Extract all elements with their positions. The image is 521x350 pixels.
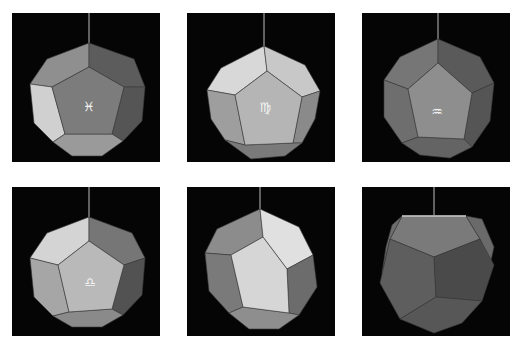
photo-panel-1: ♓ xyxy=(12,13,160,162)
zodiac-symbol: ♒ xyxy=(431,105,443,118)
photo-panel-3: ♒ xyxy=(362,13,510,162)
dodecahedron-image xyxy=(12,13,160,162)
face-bottom xyxy=(402,137,472,158)
dodecahedron-image xyxy=(12,187,160,336)
photo-panel-2: ♍ xyxy=(187,13,335,162)
photo-panel-5 xyxy=(187,187,335,336)
dodecahedron-image xyxy=(187,13,335,162)
dodecahedron-image xyxy=(362,187,510,336)
dodecahedron-image xyxy=(187,187,335,336)
photo-panel-6 xyxy=(362,187,510,336)
dodecahedron-image xyxy=(362,13,510,162)
zodiac-symbol: ♓ xyxy=(83,100,95,113)
face-bottom xyxy=(53,134,123,156)
zodiac-symbol: ♍ xyxy=(259,101,271,114)
photo-panel-4: ♎ xyxy=(12,187,160,336)
zodiac-symbol: ♎ xyxy=(84,276,96,289)
